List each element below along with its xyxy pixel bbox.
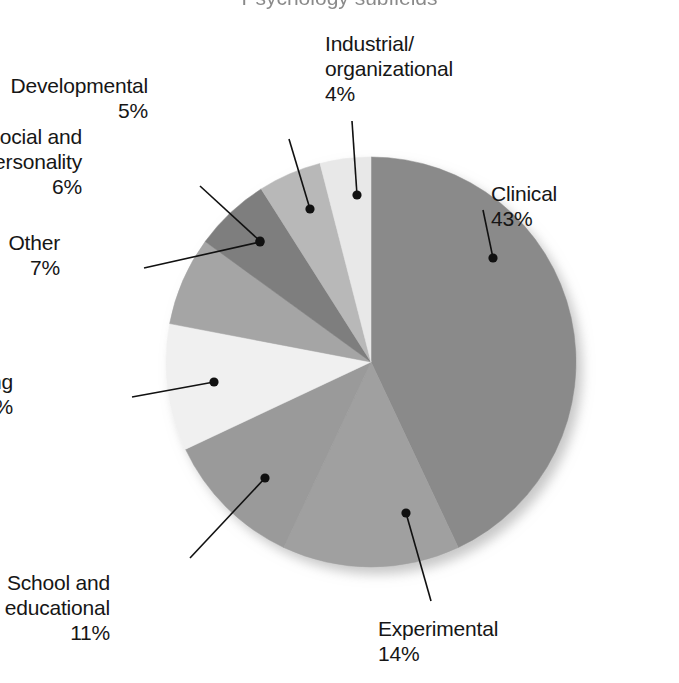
slice-label-experimental: Experimental14%	[378, 616, 498, 666]
leader-dot-experimental	[401, 508, 410, 517]
slice-label-developmental: Developmental5%	[11, 73, 148, 123]
slice-name-social-and-personality: personality	[0, 149, 82, 174]
slice-value-social-and-personality: 6%	[0, 174, 82, 199]
leader-dot-social-and-personality	[255, 236, 264, 245]
slice-name-industrial-organizational: organizational	[325, 56, 453, 81]
pie-chart-figure: Psychology subfields Clinical43%Experime…	[0, 0, 679, 683]
leader-dot-developmental	[305, 204, 314, 213]
slice-value-developmental: 5%	[11, 98, 148, 123]
slice-name-other: Other	[8, 230, 60, 255]
slice-name-school-and-educational: School and	[5, 570, 110, 595]
slice-value-clinical: 43%	[491, 206, 557, 231]
slice-name-school-and-educational: educational	[5, 595, 110, 620]
slice-name-social-and-personality: Social and	[0, 124, 82, 149]
slice-name-developmental: Developmental	[11, 73, 148, 98]
slice-value-industrial-organizational: 4%	[325, 81, 453, 106]
slice-label-industrial-organizational: Industrial/organizational4%	[325, 31, 453, 106]
slice-value-experimental: 14%	[378, 641, 498, 666]
leader-dot-industrial-organizational	[352, 190, 361, 199]
slice-label-other: Other7%	[8, 230, 60, 280]
leader-dot-school-and-educational	[260, 473, 269, 482]
slice-name-clinical: Clinical	[491, 181, 557, 206]
slice-name-industrial-organizational: Industrial/	[325, 31, 453, 56]
slice-label-school-and-educational: School andeducational11%	[5, 570, 110, 645]
slice-name-experimental: Experimental	[378, 616, 498, 641]
slice-label-clinical: Clinical43%	[491, 181, 557, 231]
leader-dot-clinical	[488, 253, 497, 262]
slice-value-other: 7%	[8, 255, 60, 280]
slice-value-school-and-educational: 11%	[5, 620, 110, 645]
slice-label-counseling: Counseling10%	[0, 369, 13, 419]
slice-value-counseling: 10%	[0, 394, 13, 419]
slice-name-counseling: Counseling	[0, 369, 13, 394]
leader-dot-counseling	[209, 377, 218, 386]
slice-label-social-and-personality: Social andpersonality6%	[0, 124, 82, 199]
